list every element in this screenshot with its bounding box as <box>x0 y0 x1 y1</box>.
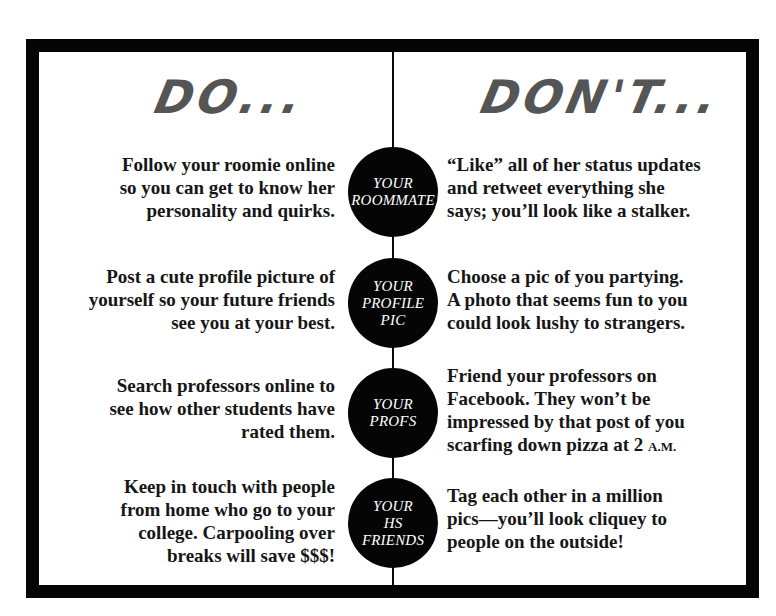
text-line: Search professors online to <box>109 374 335 397</box>
topic-label: FRIENDS <box>362 532 424 549</box>
text-line: A photo that seems fun to you <box>447 288 688 311</box>
text-line: and retweet everything she <box>447 176 701 199</box>
text-line: says; you’ll look like a stalker. <box>447 199 701 222</box>
text-line: scarfing down pizza at 2 A.M. <box>447 433 685 458</box>
text-line: Keep in touch with people <box>121 475 335 498</box>
do-profs-text: Search professors online to see how othe… <box>109 374 335 443</box>
text-line: people on the outside! <box>447 530 667 553</box>
topic-label: ROOMMATE <box>351 192 435 209</box>
text-line: breaks will save $$$! <box>121 544 335 567</box>
topic-label: HS <box>384 515 403 532</box>
topic-label: YOUR <box>373 278 413 295</box>
text-line: see how other students have <box>109 397 335 420</box>
dont-hs-friends-text: Tag each other in a million pics—you’ll … <box>447 484 667 553</box>
text-line: pics—you’ll look cliquey to <box>447 507 667 530</box>
dont-profs-text: Friend your professors on Facebook. They… <box>447 364 685 458</box>
text-line: personality and quirks. <box>120 199 335 222</box>
text-line: rated them. <box>109 420 335 443</box>
text-line: Tag each other in a million <box>447 484 667 507</box>
text-line: Follow your roomie online <box>120 153 335 176</box>
text-line: so you can get to know her <box>120 176 335 199</box>
dont-heading: DON'T... <box>476 70 725 124</box>
dont-roommate-text: “Like” all of her status updates and ret… <box>447 153 701 222</box>
do-heading: DO... <box>150 70 310 124</box>
topic-label: YOUR <box>373 396 413 413</box>
text-line: see you at your best. <box>89 311 335 334</box>
do-profile-pic-text: Post a cute profile picture of yourself … <box>89 265 335 334</box>
topic-label: PROFS <box>370 413 417 430</box>
text-line: “Like” all of her status updates <box>447 153 701 176</box>
text-line: college. Carpooling over <box>121 521 335 544</box>
text-line: Friend your professors on <box>447 364 685 387</box>
text-line: could look lushy to strangers. <box>447 311 688 334</box>
text-line: Choose a pic of you partying. <box>447 265 688 288</box>
do-roommate-text: Follow your roomie online so you can get… <box>120 153 335 222</box>
dont-profile-pic-text: Choose a pic of you partying. A photo th… <box>447 265 688 334</box>
text-line: impressed by that post of you <box>447 410 685 433</box>
topic-badge-profile-pic: YOUR PROFILE PIC <box>348 258 438 348</box>
topic-label: YOUR <box>373 498 413 515</box>
topic-label: YOUR <box>373 175 413 192</box>
do-hs-friends-text: Keep in touch with people from home who … <box>121 475 335 567</box>
time-abbrev: A.M. <box>648 439 676 454</box>
topic-label: PROFILE <box>362 295 424 312</box>
text-line: Facebook. They won’t be <box>447 387 685 410</box>
topic-badge-hs-friends: YOUR HS FRIENDS <box>348 478 438 568</box>
text-line: Post a cute profile picture of <box>89 265 335 288</box>
text-line: yourself so your future friends <box>89 288 335 311</box>
topic-badge-profs: YOUR PROFS <box>348 368 438 458</box>
text-fragment: scarfing down pizza at 2 <box>447 434 648 455</box>
text-line: from home who go to your <box>121 498 335 521</box>
topic-badge-roommate: YOUR ROOMMATE <box>348 147 438 237</box>
topic-label: PIC <box>381 312 406 329</box>
